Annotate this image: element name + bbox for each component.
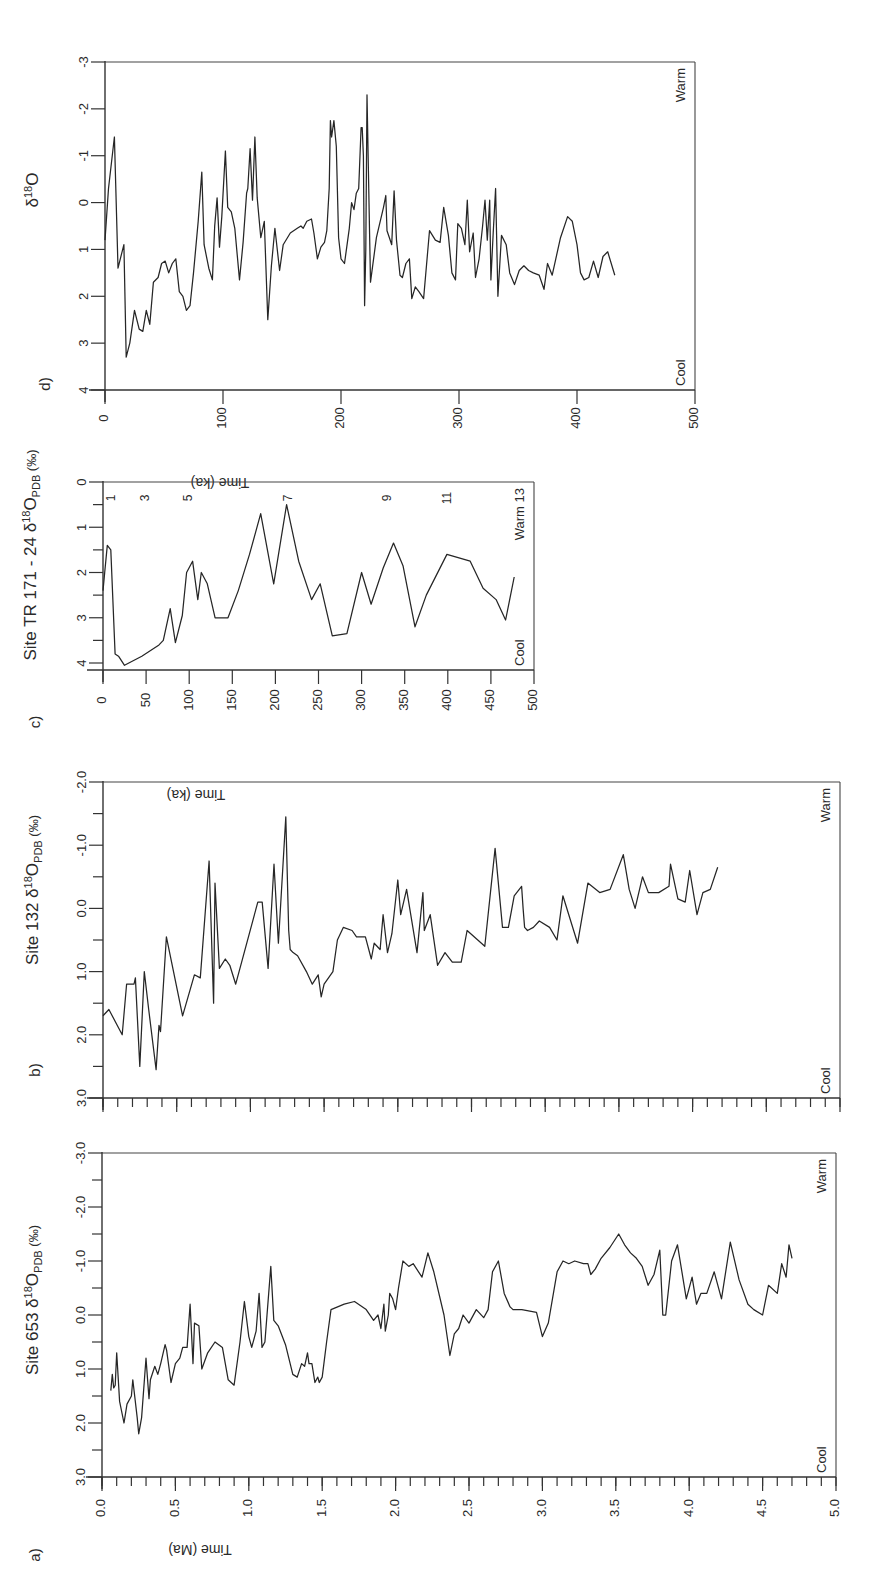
y-tick-label: 1.0 <box>73 1360 88 1378</box>
x-tick-label: 3.5 <box>607 1499 622 1517</box>
data-series-line <box>103 817 718 1070</box>
y-tick-label: 0 <box>74 478 89 485</box>
y-tick-label: 4 <box>76 386 91 393</box>
x-tick-label: 50 <box>138 693 153 707</box>
stage-label: 11 <box>440 491 454 504</box>
x-tick-label: 0 <box>96 414 111 421</box>
y-tick-label: 2.0 <box>73 1414 88 1432</box>
x-tick-label: 200 <box>332 407 347 429</box>
x-tick-label: 0 <box>94 696 109 703</box>
cool-annotation: Cool <box>818 1067 833 1094</box>
x-tick-label: 300 <box>450 407 465 429</box>
x-tick-label: 2.0 <box>387 1499 402 1517</box>
y-tick-label: -1.0 <box>74 834 89 856</box>
y-axis-label: Site 653 δ18OPDB (‰) <box>22 1225 44 1375</box>
x-tick-label: 150 <box>224 689 239 711</box>
y-tick-label: -3.0 <box>73 1142 88 1164</box>
x-tick-label: 200 <box>267 689 282 711</box>
x-tick-label: 4.0 <box>681 1499 696 1517</box>
y-tick-label: 0.0 <box>74 899 89 917</box>
x-tick-label: 450 <box>482 689 497 711</box>
x-tick-label: 400 <box>568 407 583 429</box>
panel-label: d) <box>36 377 53 390</box>
x-tick-label: 5.0 <box>827 1499 842 1517</box>
x-tick-label: 100 <box>181 689 196 711</box>
warm-annotation: Warm <box>814 1159 829 1193</box>
data-series-line <box>105 95 615 357</box>
y-tick-label: -3 <box>76 56 91 68</box>
stage-label: 5 <box>181 494 195 501</box>
x-axis-label: Time (ka) <box>167 787 226 803</box>
y-axis-label: δ18O <box>22 173 42 208</box>
y-tick-label: 0 <box>76 199 91 206</box>
panel-c-chart: 43210050100150200250300350400450500Warm … <box>20 449 540 803</box>
x-axis-label: Time (ka) <box>191 475 250 491</box>
y-tick-label: 4 <box>74 659 89 666</box>
y-tick-label: 2 <box>74 569 89 576</box>
y-tick-label: -2.0 <box>73 1196 88 1218</box>
y-tick-label: 1 <box>74 524 89 531</box>
x-tick-label: 0.5 <box>167 1499 182 1517</box>
y-tick-label: -1.0 <box>73 1250 88 1272</box>
x-tick-label: 3.0 <box>534 1499 549 1517</box>
y-tick-label: 2.0 <box>74 1026 89 1044</box>
x-tick-label: 500 <box>525 689 540 711</box>
stage-label: 9 <box>380 494 394 501</box>
warm-annotation: Warm <box>673 68 688 102</box>
data-series-line <box>103 505 514 666</box>
stage-label: 7 <box>281 494 295 501</box>
cool-annotation: Cool <box>512 639 527 666</box>
x-tick-label: 0.0 <box>93 1499 108 1517</box>
x-tick-label: 350 <box>396 689 411 711</box>
x-tick-label: 2.5 <box>460 1499 475 1517</box>
cool-annotation: Cool <box>673 359 688 386</box>
x-tick-label: 300 <box>353 689 368 711</box>
x-tick-label: 4.5 <box>754 1499 769 1517</box>
y-tick-label: 1 <box>76 246 91 253</box>
x-tick-label: 250 <box>310 689 325 711</box>
x-tick-label: 100 <box>214 407 229 429</box>
y-axis-label: Site TR 171 - 24 δ18OPDB (‰) <box>20 449 42 660</box>
x-tick-label: 500 <box>686 407 701 429</box>
y-tick-label: 3.0 <box>74 1089 89 1107</box>
y-tick-label: 0.0 <box>73 1306 88 1324</box>
panel-a-chart: 3.02.01.00.0-1.0-2.0-3.00.00.51.01.52.02… <box>22 1142 842 1562</box>
y-tick-label: -2.0 <box>74 771 89 793</box>
stage-label: 1 <box>104 494 118 501</box>
panel-b-chart: 3.02.01.00.0-1.0-2.0WarmCoolb)Site 132 δ… <box>22 771 840 1112</box>
y-tick-label: 3 <box>74 614 89 621</box>
x-tick-label: 1.0 <box>240 1499 255 1517</box>
warm-annotation: Warm <box>818 788 833 822</box>
y-tick-label: 1.0 <box>74 963 89 981</box>
y-tick-label: 2 <box>76 293 91 300</box>
y-tick-label: 3 <box>76 340 91 347</box>
cool-annotation: Cool <box>814 1446 829 1473</box>
panel-label: c) <box>26 716 43 729</box>
x-axis-label: Time (Ma) <box>168 1542 231 1558</box>
panel-label: a) <box>26 1548 43 1561</box>
y-tick-label: -2 <box>76 103 91 115</box>
y-tick-label: -1 <box>76 150 91 162</box>
x-tick-label: 400 <box>439 689 454 711</box>
y-axis-label: Site 132 δ18OPDB (‰) <box>22 815 44 965</box>
panel-label: b) <box>26 1063 43 1076</box>
figure: 43210-1-2-30100200300400500WarmCoold)δ18… <box>0 0 890 1581</box>
y-tick-label: 3.0 <box>73 1468 88 1486</box>
data-series-line <box>111 1234 792 1434</box>
x-tick-label: 1.5 <box>314 1499 329 1517</box>
warm-annotation: Warm 13 <box>512 488 527 540</box>
stage-label: 3 <box>138 494 152 501</box>
panel-d-chart: 43210-1-2-30100200300400500WarmCoold)δ18… <box>22 56 701 491</box>
